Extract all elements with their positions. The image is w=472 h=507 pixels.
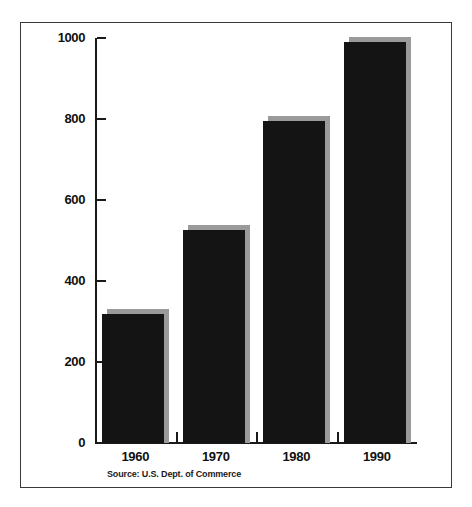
y-tick-label-600: 600 — [21, 193, 85, 206]
bar-body-1990[interactable] — [344, 42, 406, 443]
y-tick-800 — [97, 118, 106, 120]
chart-frame: 02004006008001000 1960197019801990 Sourc… — [20, 22, 452, 488]
y-tick-label-800: 800 — [21, 112, 85, 125]
y-axis-line — [95, 38, 97, 444]
x-tick-2 — [256, 432, 258, 443]
x-tick-3 — [337, 432, 339, 443]
y-tick-label-0: 0 — [21, 436, 85, 449]
x-tick-label-1970: 1970 — [176, 450, 256, 464]
y-tick-600 — [97, 199, 106, 201]
x-tick-1 — [176, 432, 178, 443]
plot-area: 02004006008001000 1960197019801990 Sourc… — [21, 23, 453, 489]
y-tick-label-200: 200 — [21, 355, 85, 368]
x-tick-label-1960: 1960 — [95, 450, 175, 464]
y-tick-label-1000: 1000 — [21, 31, 85, 44]
x-tick-label-1990: 1990 — [337, 450, 417, 464]
y-tick-400 — [97, 280, 106, 282]
bar-body-1980[interactable] — [263, 121, 325, 443]
source-note: Source: U.S. Dept. of Commerce — [107, 469, 241, 479]
x-tick-label-1980: 1980 — [256, 450, 336, 464]
y-tick-label-400: 400 — [21, 274, 85, 287]
bar-body-1970[interactable] — [183, 230, 245, 443]
y-tick-1000 — [97, 37, 106, 39]
bar-body-1960[interactable] — [102, 314, 164, 443]
chart-figure: 02004006008001000 1960197019801990 Sourc… — [0, 0, 472, 507]
